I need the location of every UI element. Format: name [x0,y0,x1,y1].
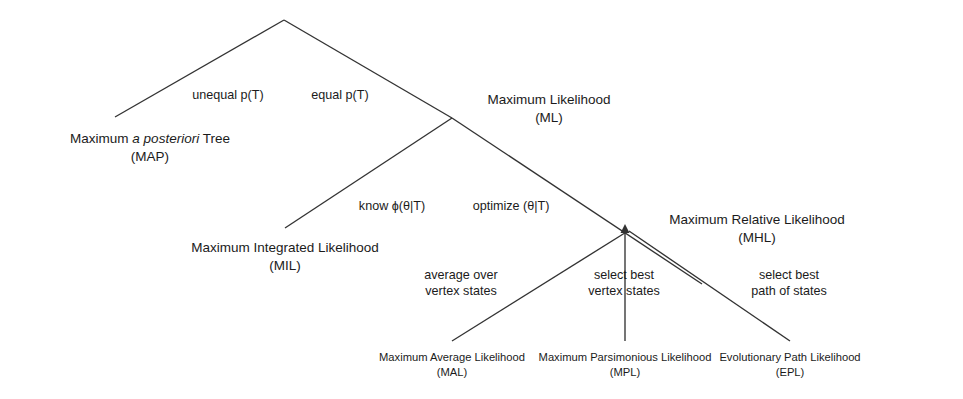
node-epl: Evolutionary Path Likelihood (EPL) [719,350,860,379]
edge-label-select-best-vertex-states-line1: select best [588,268,659,284]
node-mhl-abbr: (MHL) [669,229,845,247]
edge-label-select-best-path-of-states: select best path of states [751,268,827,299]
edge-label-average-over-vertex-states-line2: vertex states [424,284,498,300]
node-ml: Maximum Likelihood (ML) [487,91,610,126]
edge-label-equal-pt-line1: equal p(T) [311,88,368,102]
node-mil-abbr: (MIL) [191,257,379,275]
node-ml-title: Maximum Likelihood [487,91,610,109]
arrowhead-into-mhl-junction [621,224,630,233]
node-mpl: Maximum Parsimonious Likelihood (MPL) [539,350,712,379]
edge-label-select-best-path-of-states-line2: path of states [751,284,827,300]
node-ml-abbr: (ML) [487,109,610,127]
edge-label-equal-pt: equal p(T) [311,87,368,103]
node-mal-title: Maximum Average Likelihood [379,350,525,365]
node-map-title: Maximum a posteriori Tree [70,130,230,148]
edge-label-select-best-path-of-states-line1: select best [751,268,827,284]
node-mal: Maximum Average Likelihood (MAL) [379,350,525,379]
edge-label-unequal-pt: unequal p(T) [192,87,263,103]
node-mil: Maximum Integrated Likelihood (MIL) [191,239,379,274]
node-mhl: Maximum Relative Likelihood (MHL) [669,211,845,246]
edge-label-average-over-vertex-states: average over vertex states [424,268,498,299]
node-map-abbr: (MAP) [70,148,230,166]
node-mpl-title: Maximum Parsimonious Likelihood [539,350,712,365]
node-epl-abbr: (EPL) [719,365,860,380]
edge-label-optimize-theta: optimize (θ|T) [473,198,550,214]
edge-label-optimize-theta-line1: optimize (θ|T) [473,199,550,213]
edge-label-unequal-pt-line1: unequal p(T) [192,88,263,102]
node-mhl-title: Maximum Relative Likelihood [669,211,845,229]
edge-label-select-best-vertex-states: select best vertex states [588,268,659,299]
node-map: Maximum a posteriori Tree (MAP) [70,130,230,165]
edge-label-know-phi-line1: know ϕ(θ|T) [359,199,425,213]
node-epl-title: Evolutionary Path Likelihood [719,350,860,365]
node-mal-abbr: (MAL) [379,365,525,380]
node-mil-title: Maximum Integrated Likelihood [191,239,379,257]
likelihood-hierarchy-diagram: Maximum a posteriori Tree (MAP) Maximum … [0,0,963,399]
edge-label-average-over-vertex-states-line1: average over [424,268,498,284]
edge-label-know-phi: know ϕ(θ|T) [359,198,425,214]
edge-label-select-best-vertex-states-line2: vertex states [588,284,659,300]
node-mpl-abbr: (MPL) [539,365,712,380]
